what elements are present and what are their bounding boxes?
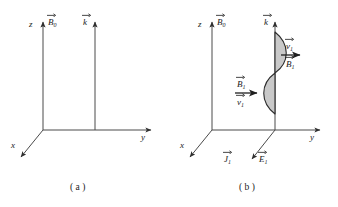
z-axis-label: z [198, 20, 202, 29]
x-axis-label: x [11, 141, 15, 150]
vector-label-v1-lower: v1 [237, 98, 244, 107]
z-axis-label: z [29, 20, 33, 29]
panel-b: z B0 k [169, 0, 338, 207]
vector-label-B0: B0 [217, 18, 226, 27]
vector-label-B0: B0 [48, 18, 57, 27]
panel-a: z B0 k y x [0, 0, 169, 207]
y-axis-label: y [141, 133, 145, 142]
wave-envelope-shape [264, 32, 287, 114]
x-axis-line [190, 130, 212, 157]
vector-label-B1-lower: B1 [237, 80, 246, 89]
vector-label-k: k [264, 18, 268, 27]
panel-a-caption: ( a ) [70, 182, 85, 192]
x-axis-label: x [180, 141, 184, 150]
y-axis-label: y [310, 133, 314, 142]
vector-label-v1-upper: v1 [286, 42, 293, 51]
vector-label-J1: J1 [224, 155, 231, 164]
vector-label-B1-upper: B1 [286, 60, 295, 69]
panel-b-caption: ( b ) [239, 182, 255, 192]
panel-b-axes-drawing [169, 0, 338, 207]
figure-container: z B0 k y x [0, 0, 338, 207]
x-axis-line [21, 130, 43, 157]
panel-a-axes-drawing [0, 0, 169, 207]
vector-label-E1: E1 [259, 155, 268, 164]
vector-label-k: k [83, 18, 87, 27]
